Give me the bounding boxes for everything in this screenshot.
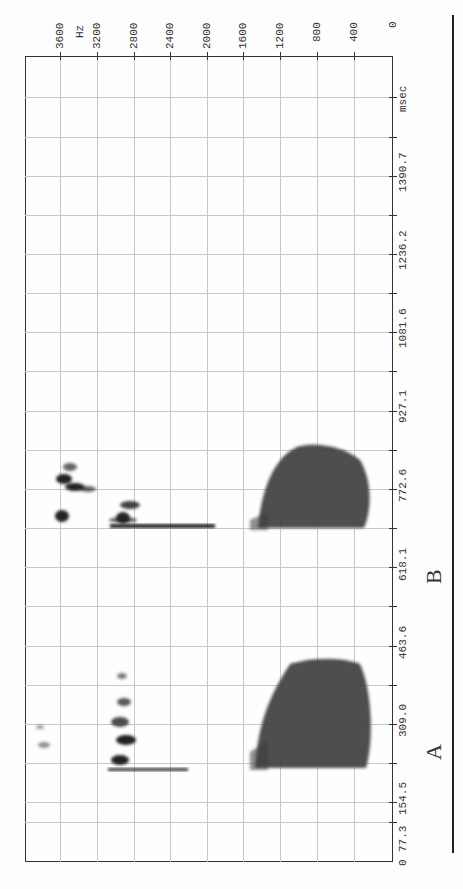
time-tick — [389, 646, 397, 647]
freq-tick — [207, 52, 208, 60]
freq-tick-label: 2000 — [201, 23, 213, 49]
freq-tick — [97, 52, 98, 60]
freq-tick-label: 1600 — [237, 23, 249, 49]
segment-label-a: A — [421, 744, 447, 760]
freq-tick — [60, 52, 61, 60]
time-tick-label: 927.1 — [397, 390, 409, 423]
time-tick — [389, 97, 397, 98]
time-tick — [389, 724, 397, 725]
spectrogram-energy — [0, 0, 463, 889]
time-tick-label: 463.6 — [397, 626, 409, 659]
time-tick — [389, 411, 397, 412]
time-tick — [389, 802, 397, 803]
time-tick-label: 309.0 — [397, 704, 409, 737]
time-tick — [389, 371, 397, 372]
time-tick — [389, 293, 397, 294]
time-tick-label: 1236.2 — [397, 230, 409, 270]
freq-tick — [317, 52, 318, 60]
time-tick-label: 1390.7 — [397, 152, 409, 192]
time-tick-label: 618.1 — [397, 548, 409, 581]
time-tick — [389, 567, 397, 568]
time-tick — [389, 450, 397, 451]
time-tick — [389, 822, 397, 823]
time-tick — [389, 215, 397, 216]
freq-tick-label: 3600 — [54, 23, 66, 49]
freq-tick — [243, 52, 244, 60]
time-tick — [389, 606, 397, 607]
freq-tick-label: 400 — [348, 22, 360, 42]
time-tick — [389, 763, 397, 764]
freq-tick-label: 1200 — [274, 23, 286, 49]
time-tick-label: 772.6 — [397, 469, 409, 502]
freq-tick-label: 2800 — [128, 23, 140, 49]
time-tick — [389, 254, 397, 255]
freq-tick — [280, 52, 281, 60]
time-tick-label: 0 — [397, 859, 409, 866]
segment-label-b: B — [421, 569, 447, 584]
freq-tick — [354, 52, 355, 60]
freq-unit-label: Hz — [74, 25, 86, 38]
time-tick — [389, 176, 397, 177]
time-tick-label: 154.5 — [397, 782, 409, 815]
freq-tick-label: 0 — [387, 21, 399, 28]
time-tick — [389, 489, 397, 490]
time-tick — [389, 528, 397, 529]
time-unit-label: msec — [397, 86, 409, 112]
time-tick-label: 77.3 — [397, 826, 409, 852]
time-tick-label: 1081.6 — [397, 308, 409, 348]
time-tick — [389, 332, 397, 333]
freq-tick — [170, 52, 171, 60]
freq-tick-label: 2400 — [164, 23, 176, 49]
freq-tick-label: 3200 — [91, 23, 103, 49]
freq-tick — [134, 52, 135, 60]
time-tick — [389, 685, 397, 686]
freq-tick-label: 800 — [311, 22, 323, 42]
page-rule-line — [452, 15, 454, 853]
segment-a-low-band — [250, 659, 371, 770]
segment-b-low-band — [250, 445, 370, 530]
time-tick — [389, 137, 397, 138]
